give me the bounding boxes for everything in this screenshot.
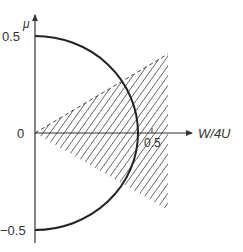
x-axis-label: W/4U — [198, 126, 231, 141]
x-tick-label-0.5: 0.5 — [144, 136, 161, 150]
y-axis-label: μ — [22, 17, 30, 31]
diagram-canvas: μ 0.5 0 −0.5 0.5 W/4U — [0, 0, 243, 252]
y-tick-label-neg0.5: −0.5 — [0, 223, 26, 238]
y-tick-label-0.5: 0.5 — [2, 29, 20, 44]
origin-label: 0 — [17, 126, 24, 141]
